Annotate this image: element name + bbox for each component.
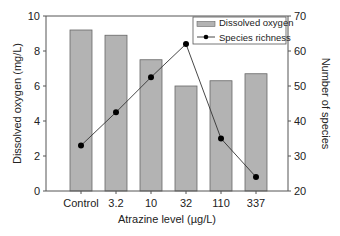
x-tick-label: 110 bbox=[212, 197, 230, 209]
species-richness-marker bbox=[218, 136, 224, 142]
x-tick-label: 10 bbox=[145, 197, 157, 209]
y-tick-label: 10 bbox=[28, 10, 40, 22]
species-richness-marker bbox=[78, 143, 84, 149]
bar-dissolved-oxygen bbox=[245, 74, 267, 191]
legend-label-species-richness: Species richness bbox=[219, 32, 291, 43]
y2-tick-label: 50 bbox=[294, 80, 306, 92]
legend-label-dissolved-oxygen: Dissolved oxygen bbox=[219, 17, 293, 28]
species-richness-marker bbox=[183, 41, 189, 47]
y-tick-label: 8 bbox=[34, 45, 40, 57]
species-richness-marker bbox=[253, 174, 259, 180]
x-tick-label: 3.2 bbox=[108, 197, 123, 209]
bar-dissolved-oxygen bbox=[175, 86, 197, 191]
species-richness-marker bbox=[148, 74, 154, 80]
x-tick-label: 32 bbox=[180, 197, 192, 209]
x-axis-label: Atrazine level (µg/L) bbox=[118, 213, 216, 225]
y-tick-label: 2 bbox=[34, 150, 40, 162]
species-richness-marker bbox=[113, 109, 119, 115]
y-tick-label: 6 bbox=[34, 80, 40, 92]
y2-tick-label: 60 bbox=[294, 45, 306, 57]
bar-dissolved-oxygen bbox=[70, 30, 92, 191]
x-tick-label: Control bbox=[63, 197, 98, 209]
y2-tick-label: 70 bbox=[294, 10, 306, 22]
chart-container: 0246810203040506070Control3.21032110337A… bbox=[0, 0, 340, 236]
y2-tick-label: 40 bbox=[294, 115, 306, 127]
y2-axis-label: Number of species bbox=[320, 58, 332, 150]
legend-swatch-marker bbox=[204, 35, 209, 40]
y2-tick-label: 20 bbox=[294, 185, 306, 197]
x-tick-label: 337 bbox=[247, 197, 265, 209]
y-tick-label: 4 bbox=[34, 115, 40, 127]
combo-chart: 0246810203040506070Control3.21032110337A… bbox=[0, 0, 340, 236]
y2-tick-label: 30 bbox=[294, 150, 306, 162]
y-tick-label: 0 bbox=[34, 185, 40, 197]
y-axis-label: Dissolved oxygen (mg/L) bbox=[11, 43, 23, 164]
legend-swatch-bar bbox=[197, 22, 215, 27]
